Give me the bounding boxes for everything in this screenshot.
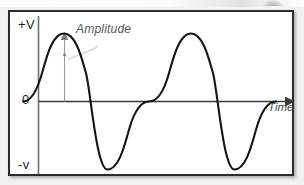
plot-inner (10, 12, 292, 174)
scan-artifact-top-edge (0, 0, 304, 7)
x-axis-label: Time (268, 102, 293, 114)
y-axis-bottom-label: -v (18, 158, 29, 171)
amplitude-annotation-label: Amplitude (76, 23, 131, 35)
amplitude-tick-dot (63, 54, 66, 57)
figure-root: +V 0 -v Amplitude Time (0, 0, 304, 185)
scan-artifact-smudge (262, 0, 284, 6)
plot-frame (8, 10, 294, 176)
y-axis-top-label: +V (18, 18, 35, 31)
amplitude-leader-line (68, 46, 98, 59)
waveform-plot-svg (10, 12, 292, 174)
y-axis-zero-label: 0 (22, 93, 30, 106)
